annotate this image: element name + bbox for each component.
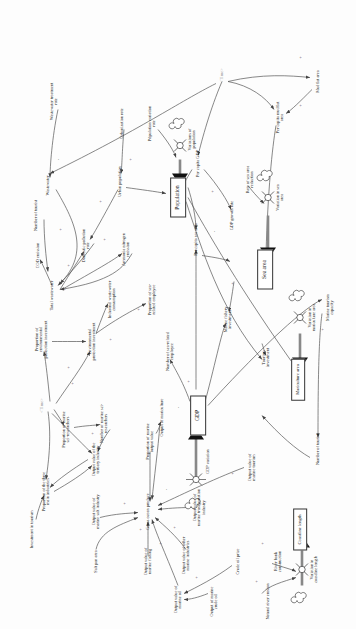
- variable-gross-ocean-produce[interactable]: Gross ocean produce: [146, 491, 150, 531]
- polarity-sign: +: [122, 502, 127, 504]
- polarity-sign: +: [172, 526, 177, 528]
- polarity-sign: +: [158, 542, 163, 544]
- variable-time[interactable]: <Time>: [40, 398, 45, 413]
- figure-page: GDPPopulationSea areaMariculture areaCoa…: [0, 0, 356, 629]
- polarity-sign: +: [298, 104, 303, 106]
- variable-marine-fishery-investment[interactable]: Marine fishery investment: [224, 299, 233, 339]
- stock-population[interactable]: Population: [170, 177, 186, 217]
- polarity-sign: +: [98, 200, 103, 202]
- variable-ammonia-nitrogen-emission[interactable]: Ammonia nitrogen emission: [122, 229, 131, 269]
- variable-salt-pan-area[interactable]: Salt pan area: [94, 550, 98, 572]
- variable-marine-tourism-capacity[interactable]: Marine tourism capacity: [326, 287, 335, 327]
- variable-investment-in-tourism[interactable]: Investment in tourism: [30, 509, 34, 549]
- polarity-sign: +: [136, 308, 141, 310]
- polarity-sign: +: [66, 366, 71, 368]
- polarity-sign: +: [194, 576, 199, 578]
- stock-sea-area[interactable]: Sea area: [257, 249, 273, 289]
- polarity-sign: +: [254, 580, 259, 582]
- variable-gdp-growth-rate[interactable]: GDP growth rate: [230, 199, 234, 232]
- rotated-diagram-canvas: GDPPopulationSea areaMariculture areaCoa…: [0, 0, 356, 629]
- polarity-sign: -: [56, 158, 61, 159]
- flow-variation-in-coastline-length[interactable]: Variation in coastline length: [310, 553, 319, 586]
- variable-proportion-of-the-three-main-industries[interactable]: Proportion of the three main industries: [42, 471, 51, 511]
- variable-river-bank-construction[interactable]: River bank construction: [274, 541, 283, 581]
- polarity-sign: +: [62, 288, 67, 290]
- variable-number-of-marine-sci-researchers[interactable]: Number of marine sci-researchers: [100, 403, 109, 443]
- variable-urban-population[interactable]: Urban population: [118, 165, 122, 198]
- polarity-sign: +: [230, 282, 235, 284]
- variable-domestic-pollution-rate[interactable]: Domestic pollution rate: [82, 225, 91, 265]
- stock-gdp[interactable]: GDP: [190, 395, 206, 435]
- polarity-sign: +: [260, 542, 265, 544]
- variable-output-of-mariculture[interactable]: Output of mariculture: [160, 397, 164, 437]
- flow-variation-in-mariculture-area[interactable]: Variation in mariculture area: [308, 301, 317, 334]
- variable-wastewater-treatment-rate[interactable]: Wastewater treatment rate: [50, 81, 59, 121]
- flow-variation-in-sea-area[interactable]: Variation in sea area: [276, 181, 285, 214]
- variable-number-of-sea-related-employee[interactable]: Number of sea-related employee: [166, 331, 175, 371]
- variable-output-value-of-the-tertiary-industry[interactable]: Output value of the tertiary industry: [92, 439, 101, 479]
- polarity-sign: +: [210, 190, 215, 192]
- variable-wastewater[interactable]: Wastewater: [46, 175, 50, 195]
- variable-tourism-investment[interactable]: Tourism investment: [262, 341, 271, 374]
- variable-proportion-of-sea-related-employee[interactable]: Proportion of sea-related employee: [148, 279, 157, 319]
- variable-output-value-of-marine-salt-industry[interactable]: Output value of marine salt industry: [92, 491, 101, 531]
- variable-output-value-of-marine-tourism[interactable]: Output value of marine tourism: [248, 447, 257, 487]
- variable-number-of-tourist[interactable]: Number of tourist: [316, 433, 320, 466]
- polarity-sign: +: [298, 56, 303, 58]
- polarity-sign: -: [164, 488, 169, 489]
- polarity-sign: +: [230, 472, 235, 474]
- variable-output-value-of-marine-fishing[interactable]: Output value of marine fishing: [144, 541, 153, 581]
- variable-total-wastewater[interactable]: Total wastewater: [50, 279, 54, 312]
- variable-cod-emission[interactable]: COD emission: [36, 242, 40, 268]
- variable-crude-oil-price[interactable]: Crude oil price: [236, 545, 240, 578]
- variable-output-value-of-other-marine-industries[interactable]: Output value of other marine industries: [182, 535, 191, 575]
- variable-output-value-of-marine-oil[interactable]: Output value of marine oil: [174, 579, 183, 619]
- stock-mariculture-area[interactable]: Mariculture area: [291, 358, 305, 400]
- polarity-sign: +: [66, 264, 71, 266]
- stock-coastline-length[interactable]: Coastline length: [293, 508, 307, 550]
- variable-per-capita-sea-area[interactable]: Per capita sea area: [194, 219, 198, 259]
- polarity-sign: +: [102, 238, 107, 240]
- variable-time[interactable]: <Time>: [220, 68, 225, 83]
- diagram-canvas: GDPPopulationSea areaMariculture areaCoa…: [0, 0, 356, 629]
- polarity-sign: -: [212, 230, 217, 231]
- polarity-sign: +: [70, 382, 75, 384]
- polarity-sign: +: [128, 158, 133, 160]
- variable-proportion-of-marine-sci-researchers[interactable]: Proportion of marine sci-researchers: [62, 409, 71, 449]
- variable-per-capita-mudflat-area[interactable]: Per capita mudflat area: [276, 97, 285, 137]
- variable-proportion-of-marine-output-value[interactable]: Proportion of marine output value: [146, 421, 155, 461]
- variable-rate-of-sea-area-reduction[interactable]: Rate of sea area reduction: [246, 159, 255, 199]
- variable-per-capita-gdp[interactable]: Per capita GDP: [196, 147, 200, 180]
- variable-output-value-of-marine-transportation-industry[interactable]: Output value of marine transportation in…: [193, 487, 206, 527]
- polarity-sign: -: [176, 406, 181, 407]
- variable-proportion-of-environmental-protection-investment[interactable]: Proportion of environmental protection i…: [35, 319, 48, 359]
- polarity-sign: -: [146, 136, 151, 137]
- variable-urbanization-rate[interactable]: Urbanization rate: [120, 107, 124, 140]
- variable-natural-river-erosion[interactable]: Natural river erosion: [266, 581, 270, 621]
- flow-gdp-variation[interactable]: GDP variation: [206, 445, 210, 478]
- polarity-sign: +: [320, 328, 325, 330]
- variable-number-of-tourist[interactable]: Number of tourist: [34, 199, 38, 232]
- variable-environmental-protection-investment[interactable]: Environmental protection investment: [88, 321, 97, 361]
- polarity-sign: +: [90, 432, 95, 434]
- variable-industrial-wastewater-consumption[interactable]: Industrial wastewater consumption: [108, 279, 117, 319]
- variable-mudflat-area[interactable]: Mudflat area: [316, 70, 320, 92]
- polarity-sign: +: [138, 528, 143, 530]
- variable-output-of-marine-crude-oil[interactable]: Output of marine crude oil: [210, 581, 219, 621]
- polarity-sign: +: [58, 228, 63, 230]
- polarity-sign: +: [108, 338, 113, 340]
- polarity-sign: +: [186, 380, 191, 382]
